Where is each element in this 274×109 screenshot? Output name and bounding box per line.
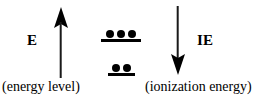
electron-dot: [123, 64, 131, 72]
energy-arrow-up-icon: [50, 6, 72, 78]
ionization-energy-symbol-label: IE: [197, 33, 213, 48]
energy-level-line: [108, 73, 135, 76]
electron-dot: [117, 30, 125, 38]
ionization-energy-arrow-down-icon: [167, 6, 189, 76]
energy-level-caption: (energy level): [2, 80, 80, 94]
electron-dot: [128, 30, 136, 38]
energy-level-upper: [101, 29, 141, 42]
energy-level-lower: [108, 63, 135, 76]
energy-level-diagram: E (energy level) IE (ionization energy): [0, 0, 274, 109]
energy-symbol-label: E: [27, 33, 37, 48]
electron-dot: [112, 64, 120, 72]
energy-level-line: [101, 39, 141, 42]
electron-dot: [106, 30, 114, 38]
electron-group-upper: [101, 29, 141, 38]
ionization-energy-caption: (ionization energy): [145, 80, 252, 94]
electron-group-lower: [108, 63, 135, 72]
